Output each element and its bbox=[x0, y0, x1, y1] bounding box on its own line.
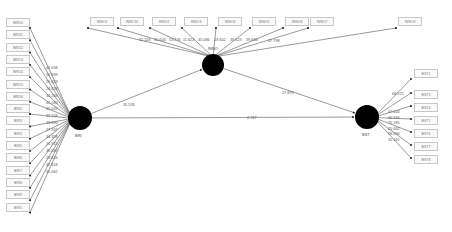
loading-line-inno1 bbox=[88, 28, 213, 57]
loading-value-inno5: 23.602 bbox=[214, 38, 226, 42]
loading-value-bri12: 29.423 bbox=[46, 80, 58, 84]
indicator-box-bri7[interactable]: BRI7 bbox=[6, 166, 30, 175]
indicator-box-inno2[interactable]: INNO2 bbox=[152, 17, 176, 26]
loading-value-bri6: 31.915 bbox=[46, 142, 58, 146]
loading-value-bri4: 27.167 bbox=[46, 128, 58, 132]
loading-value-bst4: 40.334 bbox=[388, 116, 400, 120]
indicator-box-bri8[interactable]: BRI8 bbox=[6, 178, 30, 187]
construct-inno[interactable] bbox=[202, 54, 224, 76]
loading-line-inno7 bbox=[213, 28, 308, 57]
loading-value-inno3: 11.624 bbox=[183, 38, 194, 42]
construct-label-bri: BRI bbox=[75, 133, 82, 138]
loading-value-inno6: 39.623 bbox=[230, 38, 242, 42]
loading-value-bri13: 24.633 bbox=[46, 87, 58, 91]
indicator-box-inno10[interactable]: INNO10 bbox=[120, 17, 144, 26]
loading-value-bri15: 41.580 bbox=[46, 101, 58, 105]
indicator-box-bri3[interactable]: BRI3 bbox=[6, 116, 30, 125]
loading-value-bst8: 31.162 bbox=[388, 138, 400, 142]
loading-value-bst3: 47.044 bbox=[388, 110, 400, 114]
indicator-box-inno5[interactable]: INNO5 bbox=[252, 17, 276, 26]
indicator-box-bri12[interactable]: BRI12 bbox=[6, 43, 30, 52]
indicator-box-bst4[interactable]: BST4 bbox=[414, 103, 438, 112]
loading-value-inno10: 50.634 bbox=[154, 38, 166, 42]
indicator-box-bri6[interactable]: BRI6 bbox=[6, 153, 30, 162]
indicator-box-inno7[interactable]: INNO7 bbox=[310, 17, 334, 26]
path-value-bri-inno: 16.533 bbox=[123, 103, 135, 107]
loading-value-bri3: 33.690 bbox=[46, 121, 58, 125]
indicator-box-inno3[interactable]: INNO3 bbox=[184, 17, 208, 26]
loading-value-inno7: 39.656 bbox=[246, 38, 258, 42]
loading-line-inno3 bbox=[182, 28, 213, 57]
construct-bri[interactable] bbox=[68, 106, 92, 130]
indicator-box-bri5[interactable]: BRI5 bbox=[6, 141, 30, 150]
path-value-inno-bst: 17.870 bbox=[282, 91, 294, 95]
indicator-box-bri11[interactable]: BRI11 bbox=[6, 30, 30, 39]
construct-label-inno: INNO bbox=[208, 46, 218, 51]
loading-value-bri7: 35.587 bbox=[46, 149, 58, 153]
indicator-box-bst7[interactable]: BST7 bbox=[414, 142, 438, 151]
loading-value-bri11: 56.999 bbox=[46, 73, 58, 77]
structural-model-diagram bbox=[0, 0, 452, 232]
loading-value-bri10: 42.058 bbox=[46, 66, 58, 70]
loading-value-inno8: 47.798 bbox=[268, 39, 280, 43]
indicator-box-bri2[interactable]: BRI2 bbox=[6, 104, 30, 113]
loading-line-inno8 bbox=[213, 28, 396, 57]
indicator-box-inno1[interactable]: INNO1 bbox=[90, 17, 114, 26]
loading-line-inno2 bbox=[150, 28, 213, 57]
construct-bst[interactable] bbox=[355, 105, 379, 129]
loading-value-bri1: 35.062 bbox=[46, 170, 58, 174]
loading-value-bri9: 42.618 bbox=[46, 163, 58, 167]
loading-line-inno10 bbox=[118, 28, 213, 57]
loading-value-bri8: 23.624 bbox=[46, 156, 58, 160]
indicator-box-bst6[interactable]: BST6 bbox=[414, 129, 438, 138]
loading-line-inno5 bbox=[213, 28, 250, 57]
indicator-box-inno6[interactable]: INNO6 bbox=[285, 17, 309, 26]
loading-value-bst5: 71.285 bbox=[388, 121, 400, 125]
loading-value-bst1: 64.972 bbox=[392, 92, 404, 96]
loading-value-bri16: 35.047 bbox=[46, 107, 58, 111]
indicator-box-bri16[interactable]: BRI16 bbox=[6, 92, 30, 101]
indicator-box-bri4[interactable]: BRI4 bbox=[6, 129, 30, 138]
path-bri-to-inno bbox=[91, 70, 201, 114]
indicator-box-bst8[interactable]: BST8 bbox=[414, 155, 438, 164]
indicator-box-bri14[interactable]: BRI14 bbox=[6, 67, 30, 76]
loading-value-bst7: 58.990 bbox=[388, 132, 400, 136]
loading-value-inno4: 45.086 bbox=[198, 38, 210, 42]
loading-value-bst6: 25.662 bbox=[388, 127, 400, 131]
loading-value-inno1: 52.118 bbox=[139, 38, 150, 42]
loading-value-bri5: 34.358 bbox=[46, 135, 58, 139]
indicator-box-bri13[interactable]: BRI13 bbox=[6, 55, 30, 64]
indicator-box-bri10[interactable]: BRI10 bbox=[6, 18, 30, 27]
indicator-box-bri1[interactable]: BRI1 bbox=[6, 203, 30, 212]
loading-value-bri2: 32.159 bbox=[46, 114, 58, 118]
construct-label-bst: BST bbox=[362, 132, 370, 137]
loading-line-inno4 bbox=[213, 28, 216, 57]
loading-value-inno2: 53.176 bbox=[169, 38, 181, 42]
indicator-box-bst1[interactable]: BST1 bbox=[414, 69, 438, 78]
indicator-box-inno4[interactable]: INNO4 bbox=[218, 17, 242, 26]
loading-value-bri14: 34.269 bbox=[46, 94, 58, 98]
indicator-box-bri9[interactable]: BRI9 bbox=[6, 190, 30, 199]
indicator-box-bst5[interactable]: BST5 bbox=[414, 116, 438, 125]
indicator-box-inno8[interactable]: INNO8 bbox=[398, 17, 422, 26]
indicator-box-bst3[interactable]: BST3 bbox=[414, 90, 438, 99]
path-value-bri-bst: 2.747 bbox=[247, 116, 257, 120]
path-bri-to-bst bbox=[92, 117, 353, 118]
loading-line-bri12 bbox=[30, 53, 70, 116]
indicator-box-bri15[interactable]: BRI15 bbox=[6, 80, 30, 89]
